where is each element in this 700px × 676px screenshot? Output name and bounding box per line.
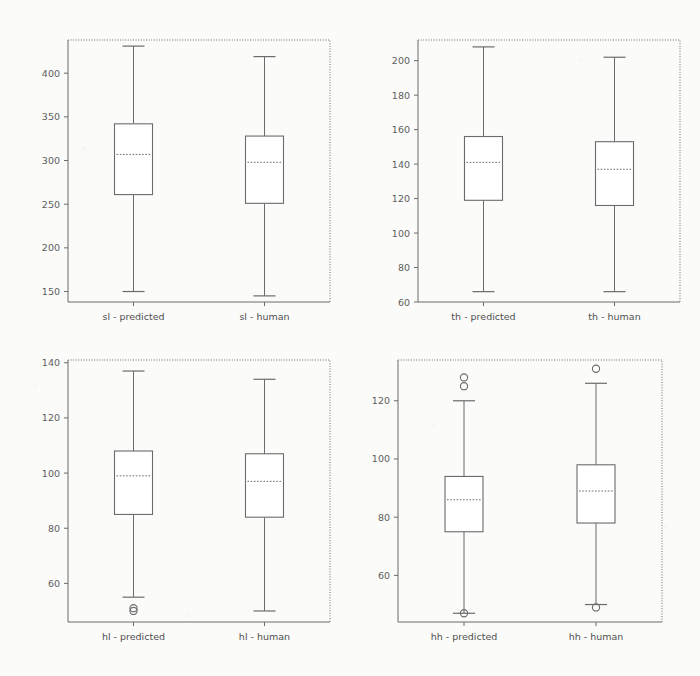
y-tick-label: 200: [42, 242, 60, 253]
y-tick-label: 100: [372, 453, 390, 464]
y-tick-label: 250: [42, 199, 60, 210]
box-hh-human: hh - human: [569, 365, 624, 642]
box-hl-predicted: hl - predicted: [102, 371, 165, 642]
y-tick-label: 80: [378, 512, 390, 523]
y-tick-label: 80: [48, 523, 60, 534]
x-axis-label: th - predicted: [451, 311, 515, 322]
y-tick-label: 100: [392, 228, 410, 239]
x-axis-label: th - human: [588, 311, 640, 322]
y-tick-label: 140: [42, 357, 60, 368]
boxplot-svg-th: 6080100120140160180200th - predictedth -…: [350, 0, 700, 338]
y-tick-label: 160: [392, 124, 410, 135]
boxplot-svg-hl: 6080100120140hl - predictedhl - human: [0, 338, 350, 676]
iqr-box: [445, 476, 483, 531]
x-axis-label: hl - predicted: [102, 631, 165, 642]
iqr-box: [115, 451, 153, 514]
y-tick-label: 350: [42, 111, 60, 122]
plot-frame-left-bottom: [398, 360, 662, 622]
plot-frame-top-right: [68, 40, 330, 302]
iqr-box: [465, 137, 503, 201]
plot-frame-top-right: [68, 360, 330, 622]
plot-frame-left-bottom: [68, 40, 330, 302]
iqr-box: [115, 124, 153, 195]
y-tick-label: 400: [42, 68, 60, 79]
outlier-point: [592, 365, 599, 372]
plot-frame-top-right: [398, 360, 662, 622]
box-hh-predicted: hh - predicted: [431, 374, 498, 642]
outlier-point: [460, 383, 467, 390]
box-sl-human: sl - human: [239, 57, 289, 322]
y-tick-label: 80: [398, 262, 410, 273]
iqr-box: [596, 142, 634, 206]
y-tick-label: 100: [42, 468, 60, 479]
box-th-human: th - human: [588, 57, 640, 322]
y-tick-label: 120: [42, 412, 60, 423]
x-axis-label: hh - human: [569, 631, 624, 642]
plot-frame-left-bottom: [418, 40, 680, 302]
y-tick-label: 200: [392, 55, 410, 66]
panel-hh: 6080100120hh - predictedhh - human: [350, 338, 700, 676]
y-tick-label: 60: [378, 570, 390, 581]
x-axis-label: sl - human: [239, 311, 289, 322]
plot-frame-left-bottom: [68, 360, 330, 622]
panel-sl: 150200250300350400sl - predictedsl - hum…: [0, 0, 350, 338]
y-tick-label: 60: [48, 578, 60, 589]
y-tick-label: 140: [392, 159, 410, 170]
y-tick-label: 60: [398, 297, 410, 308]
iqr-box: [246, 454, 284, 517]
iqr-box: [246, 136, 284, 203]
box-th-predicted: th - predicted: [451, 47, 515, 322]
y-tick-label: 300: [42, 155, 60, 166]
boxplot-svg-sl: 150200250300350400sl - predictedsl - hum…: [0, 0, 350, 338]
box-hl-human: hl - human: [239, 379, 290, 642]
x-axis-label: sl - predicted: [102, 311, 164, 322]
plot-frame-top-right: [418, 40, 680, 302]
y-tick-label: 180: [392, 90, 410, 101]
y-tick-label: 120: [392, 193, 410, 204]
box-sl-predicted: sl - predicted: [102, 46, 164, 322]
panel-hl: 6080100120140hl - predictedhl - human: [0, 338, 350, 676]
boxplot-figure: 150200250300350400sl - predictedsl - hum…: [0, 0, 700, 676]
y-tick-label: 150: [42, 286, 60, 297]
x-axis-label: hl - human: [239, 631, 290, 642]
x-axis-label: hh - predicted: [431, 631, 498, 642]
iqr-box: [577, 465, 615, 523]
panel-th: 6080100120140160180200th - predictedth -…: [350, 0, 700, 338]
y-tick-label: 120: [372, 395, 390, 406]
outlier-point: [460, 374, 467, 381]
boxplot-svg-hh: 6080100120hh - predictedhh - human: [350, 338, 700, 676]
